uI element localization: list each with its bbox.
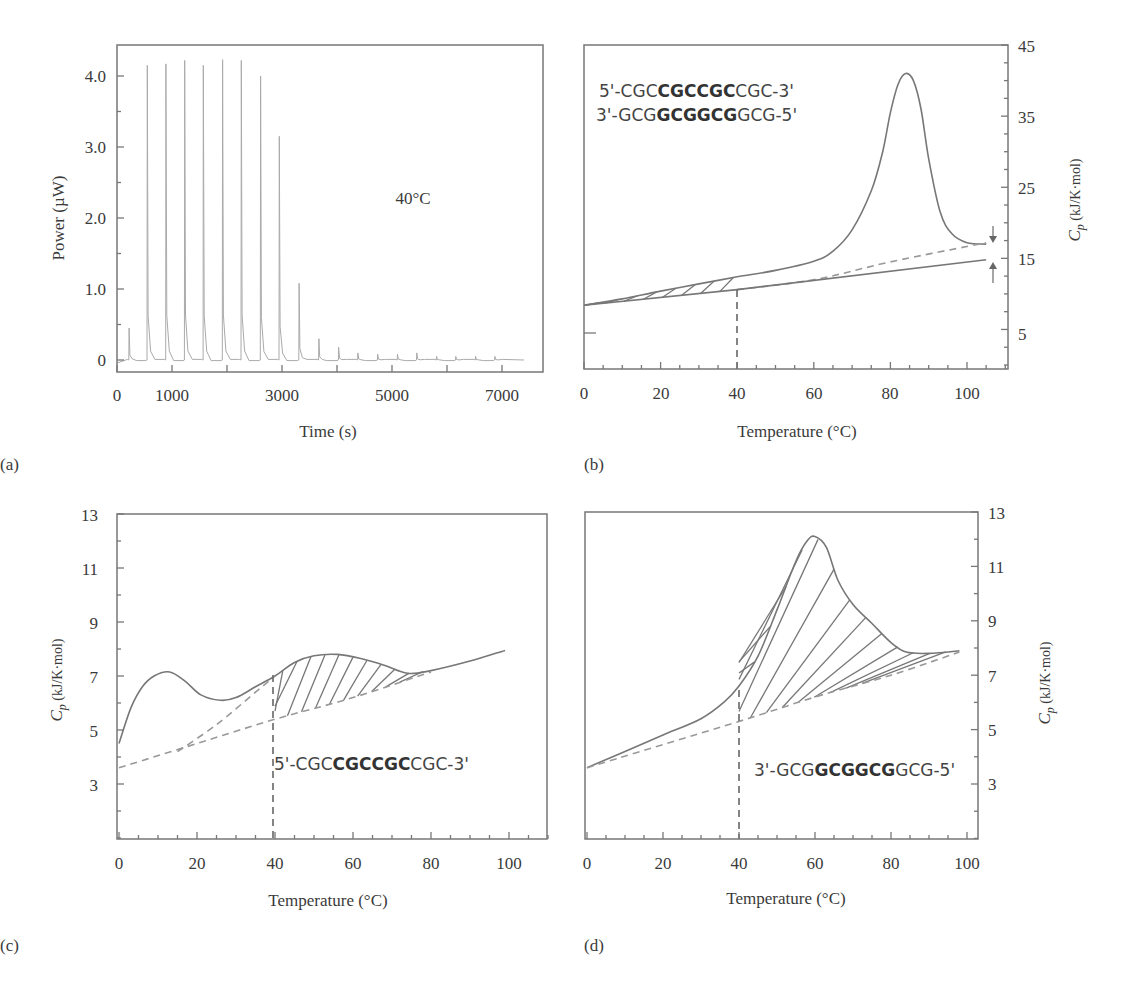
panel-c-ticks	[117, 514, 548, 839]
c-xtick-60: 60	[345, 854, 362, 873]
panel-a-frame	[117, 45, 543, 372]
c-sequence: 5'-CGCCGCCGCCGC-3'	[274, 754, 469, 774]
b-xtick-0: 0	[580, 384, 589, 403]
a-xtick-3000: 3000	[265, 386, 299, 405]
b-sequence-top: 5'-CGCCGCCGCCGC-3'	[599, 81, 794, 101]
d-xtick-80: 80	[883, 854, 900, 873]
d-xlabel: Temperature (°C)	[726, 889, 845, 908]
a-xtick-0: 0	[113, 386, 122, 405]
b-ylabel: Cp (kJ/K·mol)	[1065, 158, 1087, 241]
a-xlabel: Time (s)	[299, 422, 356, 441]
c-ytick-13: 13	[81, 506, 98, 525]
b-sequence-bottom: 3'-GCGGCGGCGGCG-5'	[596, 105, 797, 125]
panel-c-frame	[117, 514, 547, 839]
d-ytick-11: 11	[988, 558, 1004, 577]
a-ytick-2: 2.0	[85, 209, 106, 228]
b-xtick-100: 100	[954, 384, 980, 403]
b-ytick-5: 5	[1018, 325, 1027, 344]
b-arrow-down-icon	[989, 226, 997, 243]
panel-label-c: (c)	[0, 936, 19, 955]
b-ytick-15: 15	[1018, 250, 1035, 269]
d-ytick-7: 7	[988, 667, 997, 686]
d-xtick-60: 60	[807, 854, 824, 873]
d-xtick-0: 0	[583, 854, 592, 873]
b-xlabel: Temperature (°C)	[737, 422, 856, 441]
panel-d-ticks	[587, 512, 978, 839]
c-xtick-0: 0	[115, 854, 124, 873]
b-xtick-40: 40	[729, 384, 746, 403]
a-ytick-4: 4.0	[85, 67, 106, 86]
d-ytick-13: 13	[988, 504, 1005, 523]
panel-d: 3'-GCGGCGGCGGCG-5' 3 5 7 9 11 13 0 20 40…	[583, 504, 1057, 955]
c-ylabel: Cp (kJ/K·mol)	[47, 638, 69, 721]
panel-label-b: (b)	[584, 455, 604, 474]
a-xtick-1000: 1000	[155, 386, 189, 405]
b-ytick-45: 45	[1018, 37, 1035, 56]
d-sequence: 3'-GCGGCGGCGGCG-5'	[754, 760, 955, 780]
a-xtick-5000: 5000	[375, 386, 409, 405]
panel-b: 5'-CGCCGCCGCCGC-3' 3'-GCGGCGGCGGCG-5' 5 …	[580, 37, 1087, 474]
c-ytick-3: 3	[90, 776, 99, 795]
d-ytick-3: 3	[988, 775, 997, 794]
panel-a-ticks	[117, 76, 502, 372]
b-xtick-60: 60	[806, 384, 823, 403]
d-ytick-5: 5	[988, 721, 997, 740]
c-ytick-7: 7	[90, 668, 99, 687]
b-xtick-80: 80	[882, 384, 899, 403]
c-ytick-5: 5	[90, 722, 99, 741]
d-xtick-100: 100	[954, 854, 980, 873]
b-solid-baseline	[584, 260, 986, 306]
d-ytick-9: 9	[988, 612, 997, 631]
c-xlabel: Temperature (°C)	[268, 891, 387, 910]
c-ytick-11: 11	[82, 560, 98, 579]
a-ytick-1: 1.0	[85, 280, 106, 299]
figure-canvas: 0 1.0 2.0 3.0 4.0 0 1000 3000 5000 7000 …	[0, 0, 1134, 998]
panel-label-d: (d)	[584, 936, 604, 955]
a-ylabel: Power (µW)	[49, 176, 68, 261]
c-hatched-area	[275, 655, 423, 716]
b-dashed-baseline	[737, 243, 986, 290]
c-xtick-40: 40	[267, 854, 284, 873]
c-ytick-9: 9	[90, 614, 99, 633]
d-xtick-20: 20	[655, 854, 672, 873]
b-xtick-20: 20	[653, 384, 670, 403]
c-xtick-80: 80	[423, 854, 440, 873]
panel-d-frame	[585, 512, 978, 839]
d-dashed-baseline	[587, 652, 959, 768]
d-ylabel: Cp (kJ/K·mol)	[1035, 641, 1057, 724]
b-ytick-25: 25	[1018, 179, 1035, 198]
b-ytick-35: 35	[1018, 108, 1035, 127]
a-ytick-0: 0	[98, 351, 107, 370]
a-xtick-7000: 7000	[485, 386, 519, 405]
c-xtick-20: 20	[189, 854, 206, 873]
panel-a: 0 1.0 2.0 3.0 4.0 0 1000 3000 5000 7000 …	[0, 45, 543, 474]
d-heat-capacity-curve	[587, 536, 959, 768]
a-ytick-3: 3.0	[85, 138, 106, 157]
c-xtick-100: 100	[496, 854, 522, 873]
b-arrow-up-icon	[989, 262, 997, 283]
a-temperature-annotation: 40°C	[395, 189, 430, 208]
panel-label-a: (a)	[0, 455, 19, 474]
panel-c: 5'-CGCCGCCGCCGC-3' 3 5 7 9 11 13 0 20 40…	[0, 506, 548, 955]
d-xtick-40: 40	[731, 854, 748, 873]
power-trace	[117, 60, 524, 363]
c-heat-capacity-curve	[119, 650, 505, 743]
